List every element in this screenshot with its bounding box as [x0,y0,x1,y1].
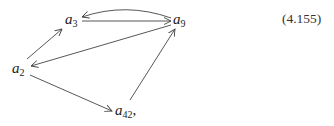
node-a42: a42, [115,103,136,120]
node-a2: a2 [12,61,25,78]
node-a9: a9 [173,12,186,29]
node-a3: a3 [65,12,78,29]
node-a2-subscript: 2 [20,67,25,78]
node-a3-base: a [65,11,73,27]
node-a42-base: a [115,102,123,118]
node-a3-subscript: 3 [73,18,78,29]
equation-number: (4.155) [282,12,321,26]
edge-a2-to-a42 [30,75,112,111]
node-a9-base: a [173,11,181,27]
edge-a42-to-a9 [130,29,175,100]
node-a42-comma: , [133,102,137,118]
node-a2-base: a [12,60,20,76]
edge-a9-to-a2 [31,25,171,66]
edge-a9-to-a3-curved [82,10,171,18]
node-a9-subscript: 9 [181,18,186,29]
node-a42-subscript: 42 [123,109,133,120]
edge-a2-to-a3 [27,29,62,59]
